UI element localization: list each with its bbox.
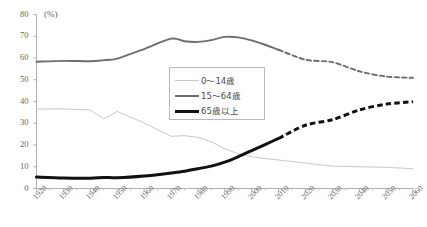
population-age-structure-chart: (%) 01020304050607080 192019301940195019… <box>0 0 427 227</box>
y-axis-tick-label: 20 <box>13 139 29 149</box>
series-line-projection <box>279 102 413 139</box>
legend-item: 0～14歳 <box>175 72 235 88</box>
chart-legend: 0～14歳15～64歳65歳以上 <box>169 67 265 120</box>
y-axis-tick-label: 50 <box>13 74 29 84</box>
y-axis-tick-label: 70 <box>13 30 29 40</box>
y-axis-tick-label: 60 <box>13 52 29 62</box>
legend-label: 0～14歳 <box>199 74 235 86</box>
y-axis-tick-label: 40 <box>13 96 29 106</box>
legend-swatch-icon <box>175 106 199 114</box>
legend-item: 15～64歳 <box>175 87 241 103</box>
series-line-historical <box>37 138 279 178</box>
y-axis-tick-label: 30 <box>13 117 29 127</box>
y-axis-tick-label: 0 <box>13 183 29 193</box>
legend-swatch-icon <box>175 76 199 84</box>
series-line-historical <box>37 37 279 62</box>
y-axis-tick-label: 80 <box>13 9 29 19</box>
legend-item: 65歳以上 <box>175 102 239 118</box>
legend-label: 15～64歳 <box>199 89 241 101</box>
series-line-projection <box>279 50 413 78</box>
y-axis-tick-label: 10 <box>13 161 29 171</box>
legend-label: 65歳以上 <box>199 104 239 116</box>
y-axis-unit-label: (%) <box>44 9 58 19</box>
legend-swatch-icon <box>175 91 199 99</box>
series-line-projection <box>279 160 413 169</box>
